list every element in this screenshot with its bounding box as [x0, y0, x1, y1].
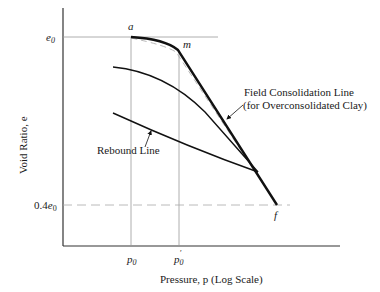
04e0-label: 0.4e0: [34, 199, 57, 213]
p0-label: p0: [126, 253, 137, 267]
field-line-leader-arrow: [227, 105, 243, 119]
field-line-annotation-1: Field Consolidation Line: [244, 86, 354, 98]
field-line-annotation-2: (for Overconsolidated Clay): [243, 99, 367, 112]
consolidation-diagram: e0 0.4e0 p0 p0′ Pressure, p (Log Scale) …: [0, 0, 380, 292]
virgin-dashed-line: [131, 38, 277, 205]
point-a-label: a: [128, 20, 134, 32]
point-f-label: f: [274, 209, 279, 221]
laboratory-curve: [113, 67, 258, 172]
e0-label: e0: [46, 31, 55, 45]
y-axis-title: Void Ratio, e: [17, 116, 29, 174]
point-m-label: m: [183, 38, 191, 50]
rebound-line-annotation: Rebound Line: [97, 144, 160, 156]
x-axis-title: Pressure, p (Log Scale): [160, 273, 263, 286]
field-consolidation-line: [131, 37, 277, 205]
p0-prime-label: p0′: [173, 249, 184, 267]
